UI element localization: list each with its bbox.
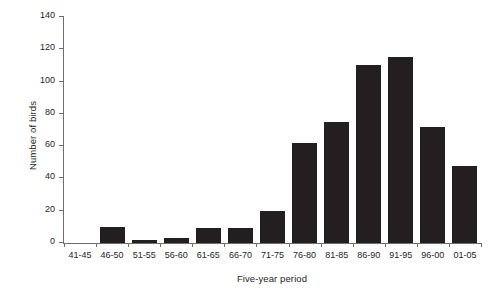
y-axis-tick-label: 40: [45, 171, 55, 181]
y-axis-tick-label: 60: [45, 139, 55, 149]
x-axis-tick-label: 56-60: [160, 250, 192, 260]
bar-chart-figure: Number of birds Five-year period 0204060…: [0, 0, 490, 299]
x-axis-tick: [192, 243, 193, 247]
x-axis-tick: [96, 243, 97, 247]
x-axis-tick-label: 41-45: [64, 250, 96, 260]
bar: [324, 122, 349, 243]
y-axis-tick-label: 140: [40, 10, 55, 20]
bar: [388, 57, 413, 243]
x-axis-tick: [128, 243, 129, 247]
y-axis-tick-label: 0: [50, 236, 55, 246]
x-axis-tick-label: 91-95: [385, 250, 417, 260]
bar: [228, 228, 253, 243]
x-axis-tick-label: 81-85: [321, 250, 353, 260]
bar-category-slot: 81-85: [321, 17, 353, 243]
bar: [260, 211, 285, 243]
bar-category-slot: 41-45: [64, 17, 96, 243]
bar-category-slot: 51-55: [128, 17, 160, 243]
bar-category-slot: 46-50: [96, 17, 128, 243]
x-axis-tick-label: 96-00: [417, 250, 449, 260]
bar-category-slot: 71-75: [256, 17, 288, 243]
x-axis-tick-label: 66-70: [224, 250, 256, 260]
x-axis-tick: [321, 243, 322, 247]
x-axis-tick-label: 76-80: [289, 250, 321, 260]
bar: [420, 127, 445, 243]
bar: [100, 227, 125, 243]
y-axis-tick-label: 100: [40, 75, 55, 85]
x-axis-tick: [353, 243, 354, 247]
x-axis-tick: [449, 243, 450, 247]
x-axis-tick-label: 61-65: [192, 250, 224, 260]
bar: [292, 143, 317, 243]
bar: [196, 228, 221, 243]
bar: [356, 65, 381, 243]
bar-category-slot: 76-80: [289, 17, 321, 243]
x-axis-tick: [385, 243, 386, 247]
x-axis-label: Five-year period: [64, 273, 480, 284]
x-axis-tick: [417, 243, 418, 247]
x-axis-tick-label: 46-50: [96, 250, 128, 260]
x-axis-tick-label: 86-90: [353, 250, 385, 260]
x-axis-line: [63, 243, 482, 244]
bar-category-slot: 91-95: [385, 17, 417, 243]
bar-category-slot: 01-05: [449, 17, 481, 243]
x-axis-tick-label: 71-75: [256, 250, 288, 260]
plot-area: 020406080100120140 41-4546-5051-5556-606…: [64, 17, 481, 243]
x-axis-tick: [160, 243, 161, 247]
bar-category-slot: 56-60: [160, 17, 192, 243]
bar-category-slot: 61-65: [192, 17, 224, 243]
x-axis-tick: [481, 243, 482, 247]
bar: [452, 166, 477, 243]
bar-category-slot: 66-70: [224, 17, 256, 243]
y-axis-label: Number of birds: [27, 66, 38, 206]
bar-series: 41-4546-5051-5556-6061-6566-7071-7576-80…: [64, 17, 481, 243]
bar-category-slot: 96-00: [417, 17, 449, 243]
x-axis-tick: [224, 243, 225, 247]
y-axis-tick-label: 80: [45, 107, 55, 117]
x-axis-tick: [289, 243, 290, 247]
x-axis-tick-label: 01-05: [449, 250, 481, 260]
bar: [164, 238, 189, 243]
y-axis-tick-label: 20: [45, 204, 55, 214]
x-axis-tick: [256, 243, 257, 247]
bar: [132, 240, 157, 243]
bar-category-slot: 86-90: [353, 17, 385, 243]
x-axis-tick: [64, 243, 65, 247]
x-axis-tick-label: 51-55: [128, 250, 160, 260]
y-axis-tick-label: 120: [40, 42, 55, 52]
